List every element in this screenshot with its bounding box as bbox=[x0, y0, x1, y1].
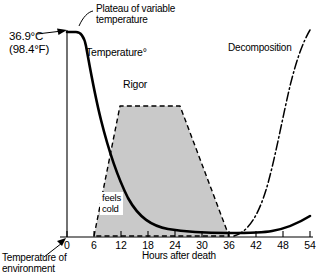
x-tick-label: 42 bbox=[244, 240, 268, 251]
temperature-curve-label: Temperature° bbox=[86, 47, 147, 59]
decomposition-label: Decomposition bbox=[228, 42, 292, 53]
feels-cold-label: feels cold bbox=[100, 192, 123, 215]
rigor-label: Rigor bbox=[123, 79, 147, 91]
x-tick-label: 18 bbox=[136, 240, 160, 251]
x-tick-label: 36 bbox=[217, 240, 241, 251]
plateau-annotation: Plateau of variable temperature bbox=[96, 3, 175, 25]
x-tick-label: 30 bbox=[190, 240, 214, 251]
body-temperature-annotation: 36.9°C (98.4°F) bbox=[9, 30, 49, 56]
postmortem-changes-chart: Plateau of variable temperature 36.9°C (… bbox=[0, 0, 322, 278]
x-tick-label: 54 bbox=[298, 240, 322, 251]
environment-temperature-annotation: Temperature of environment bbox=[2, 252, 66, 274]
x-axis-title: Hours after death bbox=[142, 250, 216, 261]
decomposition-curve bbox=[234, 30, 310, 236]
x-tick-label: 48 bbox=[271, 240, 295, 251]
x-tick-label: 6 bbox=[82, 240, 106, 251]
plateau-leader-line bbox=[79, 11, 93, 26]
body-temp-arrowhead bbox=[57, 29, 67, 36]
x-tick-label: 24 bbox=[163, 240, 187, 251]
x-tick-label: 12 bbox=[109, 240, 133, 251]
rigor-region bbox=[94, 106, 229, 236]
x-tick-label: 0 bbox=[55, 240, 79, 251]
